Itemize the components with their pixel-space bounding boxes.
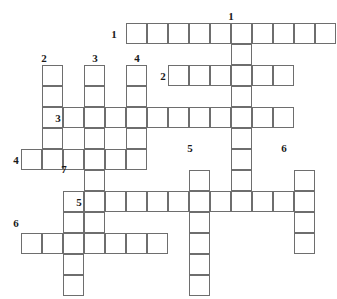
clue-number-across-6: 6 — [9, 218, 23, 229]
clue-number-across-3: 3 — [51, 113, 65, 124]
crossword-cell[interactable] — [63, 275, 84, 296]
crossword-cell[interactable] — [126, 128, 147, 149]
crossword-cell[interactable] — [168, 107, 189, 128]
crossword-cell[interactable] — [63, 212, 84, 233]
crossword-cell[interactable] — [84, 170, 105, 191]
clue-number-across-4: 4 — [9, 155, 23, 166]
crossword-cell-shared[interactable] — [189, 191, 210, 212]
crossword-cell-shared[interactable] — [294, 191, 315, 212]
clue-number-down-7: 7 — [57, 164, 71, 175]
crossword-cell[interactable] — [210, 191, 231, 212]
crossword-cell[interactable] — [84, 86, 105, 107]
clue-number-down-2: 2 — [37, 53, 51, 64]
crossword-cell[interactable] — [210, 65, 231, 86]
crossword-cell[interactable] — [105, 107, 126, 128]
crossword-cell[interactable] — [252, 23, 273, 44]
crossword-cell-shared[interactable] — [84, 149, 105, 170]
clue-number-across-1: 1 — [107, 29, 121, 40]
crossword-cell[interactable] — [273, 23, 294, 44]
crossword-cell[interactable] — [126, 233, 147, 254]
crossword-cell[interactable] — [189, 254, 210, 275]
crossword-puzzle: 1234561234567 — [0, 0, 337, 299]
crossword-cell[interactable] — [231, 170, 252, 191]
crossword-cell[interactable] — [189, 233, 210, 254]
crossword-cell[interactable] — [63, 254, 84, 275]
crossword-cell-shared[interactable] — [84, 191, 105, 212]
crossword-cell[interactable] — [147, 23, 168, 44]
crossword-cell[interactable] — [294, 233, 315, 254]
crossword-cell[interactable] — [189, 170, 210, 191]
crossword-cell[interactable] — [126, 86, 147, 107]
crossword-cell[interactable] — [189, 23, 210, 44]
crossword-cell[interactable] — [42, 233, 63, 254]
crossword-cell[interactable] — [84, 128, 105, 149]
crossword-cell[interactable] — [294, 212, 315, 233]
crossword-cell-shared[interactable] — [63, 233, 84, 254]
crossword-cell[interactable] — [168, 65, 189, 86]
clue-number-down-5: 5 — [183, 143, 197, 154]
crossword-cell[interactable] — [252, 191, 273, 212]
crossword-cell-shared[interactable] — [231, 191, 252, 212]
crossword-cell[interactable] — [168, 191, 189, 212]
crossword-cell[interactable] — [231, 128, 252, 149]
clue-number-down-3: 3 — [88, 53, 102, 64]
clue-number-down-6: 6 — [277, 143, 291, 154]
crossword-cell[interactable] — [294, 170, 315, 191]
crossword-cell[interactable] — [147, 191, 168, 212]
crossword-cell-shared[interactable] — [231, 65, 252, 86]
crossword-cell[interactable] — [21, 149, 42, 170]
crossword-cell[interactable] — [189, 275, 210, 296]
crossword-cell[interactable] — [105, 233, 126, 254]
crossword-cell[interactable] — [189, 212, 210, 233]
crossword-cell[interactable] — [84, 212, 105, 233]
crossword-cell[interactable] — [231, 86, 252, 107]
clue-number-across-5: 5 — [72, 197, 86, 208]
crossword-cell[interactable] — [42, 65, 63, 86]
crossword-cell[interactable] — [42, 128, 63, 149]
crossword-cell[interactable] — [252, 107, 273, 128]
crossword-cell-shared[interactable] — [231, 23, 252, 44]
crossword-cell[interactable] — [189, 65, 210, 86]
crossword-cell[interactable] — [147, 107, 168, 128]
crossword-cell[interactable] — [273, 191, 294, 212]
crossword-cell[interactable] — [315, 23, 336, 44]
crossword-cell[interactable] — [147, 233, 168, 254]
clue-number-down-4: 4 — [130, 53, 144, 64]
crossword-cell-shared[interactable] — [126, 107, 147, 128]
crossword-cell[interactable] — [126, 191, 147, 212]
crossword-cell[interactable] — [21, 233, 42, 254]
crossword-cell[interactable] — [126, 65, 147, 86]
crossword-cell[interactable] — [231, 44, 252, 65]
crossword-cell[interactable] — [63, 107, 84, 128]
clue-number-down-1: 1 — [224, 11, 238, 22]
crossword-cell[interactable] — [252, 65, 273, 86]
crossword-cell[interactable] — [189, 107, 210, 128]
crossword-cell[interactable] — [105, 191, 126, 212]
crossword-cell[interactable] — [105, 149, 126, 170]
crossword-cell[interactable] — [231, 149, 252, 170]
crossword-cell[interactable] — [210, 107, 231, 128]
crossword-cell[interactable] — [168, 23, 189, 44]
crossword-cell-shared[interactable] — [84, 107, 105, 128]
crossword-cell[interactable] — [84, 65, 105, 86]
crossword-cell[interactable] — [273, 65, 294, 86]
crossword-cell[interactable] — [126, 23, 147, 44]
crossword-cell[interactable] — [294, 23, 315, 44]
crossword-cell-shared[interactable] — [84, 233, 105, 254]
crossword-cell[interactable] — [210, 23, 231, 44]
crossword-cell-shared[interactable] — [231, 107, 252, 128]
crossword-cell[interactable] — [126, 149, 147, 170]
crossword-cell[interactable] — [273, 107, 294, 128]
clue-number-across-2: 2 — [156, 71, 170, 82]
crossword-cell[interactable] — [42, 86, 63, 107]
